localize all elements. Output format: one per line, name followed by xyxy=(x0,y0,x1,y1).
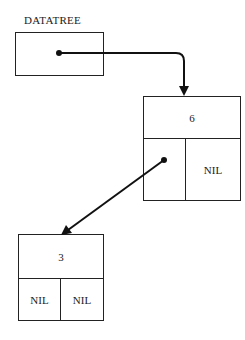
edges-layer xyxy=(0,0,245,340)
arrowhead-icon xyxy=(61,225,72,235)
edge-root-to-left-child xyxy=(61,157,167,235)
edge-datatree-to-root xyxy=(56,50,189,96)
arrowhead-icon xyxy=(179,86,189,96)
